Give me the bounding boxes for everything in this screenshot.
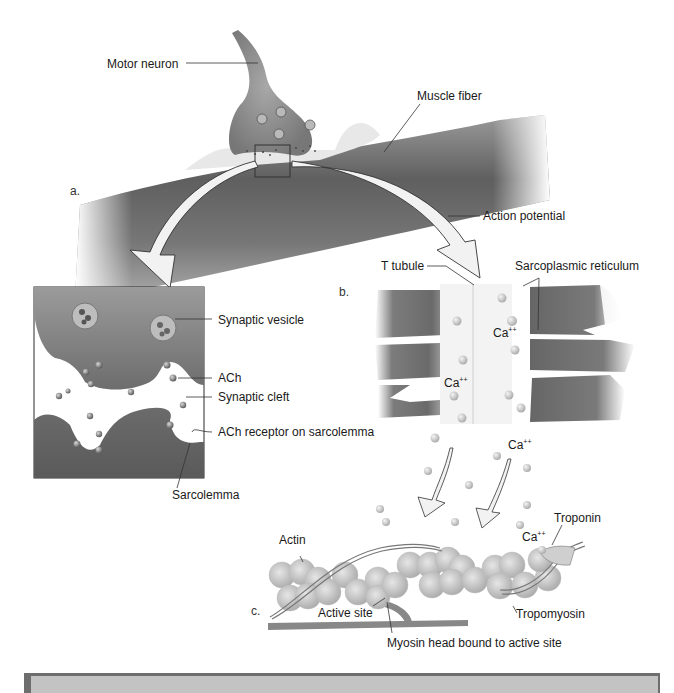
calcium-ions-c — [376, 481, 546, 554]
label-muscle-fiber: Muscle fiber — [417, 89, 482, 103]
panel-label-a: a. — [70, 184, 80, 198]
calcium-diffusion-arrow-2 — [476, 459, 511, 528]
label-calcium-1: Ca++ — [493, 323, 517, 340]
label-ach-receptor: ACh receptor on sarcolemma — [218, 425, 374, 439]
label-tropomyosin: Tropomyosin — [516, 607, 585, 621]
synapse-detail-box — [34, 287, 204, 478]
label-motor-neuron: Motor neuron — [107, 57, 178, 71]
label-synaptic-cleft: Synaptic cleft — [218, 390, 289, 404]
myosin-filament — [268, 620, 468, 630]
label-calcium-3: Ca++ — [508, 435, 532, 452]
calcium-diffusion-arrow-1 — [418, 448, 453, 517]
label-action-potential: Action potential — [483, 209, 565, 223]
panel-b — [375, 280, 670, 528]
label-calcium-2: Ca++ — [444, 373, 468, 390]
label-calcium-4: Ca++ — [522, 527, 546, 544]
label-myosin-head: Myosin head bound to active site — [387, 636, 562, 650]
label-synaptic-vesicle: Synaptic vesicle — [218, 313, 304, 327]
label-troponin: Troponin — [554, 511, 601, 525]
actin-beads — [269, 547, 561, 611]
label-active-site: Active site — [318, 606, 373, 620]
label-t-tubule: T tubule — [381, 259, 424, 273]
panel-label-c: c. — [251, 604, 260, 618]
label-sarcoplasmic-reticulum: Sarcoplasmic reticulum — [515, 259, 639, 273]
caption-bar — [24, 673, 660, 693]
label-actin: Actin — [279, 533, 306, 547]
label-ach: ACh — [218, 371, 241, 385]
panel-label-b: b. — [339, 285, 349, 299]
label-sarcolemma: Sarcolemma — [172, 488, 239, 502]
motor-neuron-shape — [229, 30, 312, 156]
